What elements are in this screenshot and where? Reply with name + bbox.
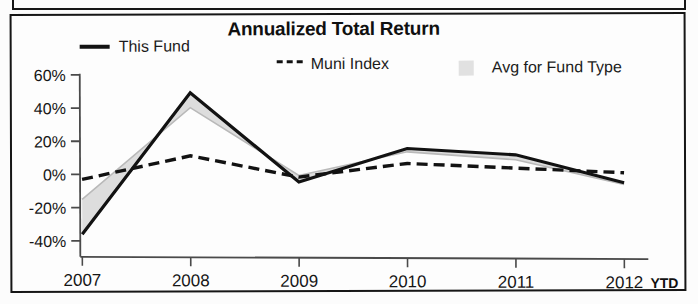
plot-area: 60%40%20%0%-20%-40% 20072008200920102011… (12, 14, 689, 295)
y-axis-tick-labels: 60%40%20%0%-20%-40% (28, 67, 66, 250)
x-axis-tick-labels: 200720082009201020112012YTD (63, 269, 678, 294)
scanned-page-canvas: Annualized Total Return This Fund Muni I… (0, 0, 698, 304)
x-axis-tick-label: 2012 (605, 273, 643, 292)
x-axis-tick-label: 2007 (63, 271, 101, 290)
y-axis-tick-label: 0% (43, 166, 66, 183)
series-line-this-fund (82, 91, 624, 234)
x-axis-tick-label: 2011 (498, 273, 535, 292)
chart-panel: Annualized Total Return This Fund Muni I… (10, 12, 687, 293)
y-axis-tick-label: 60% (34, 67, 66, 84)
x-axis-tick-label: 2009 (280, 272, 318, 291)
x-axis-ytd-note: YTD (650, 275, 678, 291)
y-axis-tick-label: 40% (34, 100, 66, 117)
x-axis-tick-label: 2008 (172, 271, 210, 290)
x-axis-tick-label: 2010 (389, 272, 427, 291)
y-axis-tick-label: 20% (34, 133, 66, 150)
table-cell-remnant-above (12, 0, 686, 10)
chart-plot-svg: 60%40%20%0%-20%-40% 20072008200920102011… (12, 14, 689, 295)
y-axis-tick-label: -20% (29, 200, 66, 217)
y-axis-tick-label: -40% (29, 233, 66, 250)
